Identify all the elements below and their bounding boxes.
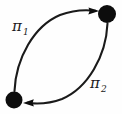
bigon-diagram-svg: π 1 π 2 bbox=[0, 0, 122, 114]
pi-2-glyph: π bbox=[89, 74, 101, 92]
pi-2-subscript: 2 bbox=[100, 84, 107, 94]
pi-1-glyph: π bbox=[11, 17, 23, 35]
node-top-right bbox=[98, 5, 116, 23]
pi-1-subscript: 1 bbox=[23, 27, 29, 37]
diagram-canvas: π 1 π 2 bbox=[0, 0, 122, 114]
node-bottom-left bbox=[6, 92, 23, 109]
